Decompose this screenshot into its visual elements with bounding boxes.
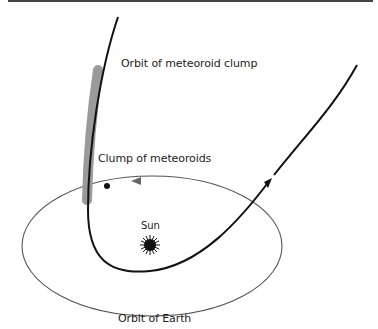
sun-icon <box>140 235 160 255</box>
earth-orbit-label: Orbit of Earth <box>118 312 191 325</box>
earth-orbit-arrow-icon <box>131 177 141 185</box>
sun-label: Sun <box>141 220 160 231</box>
meteoroid-orbit-label: Orbit of meteoroid clump <box>121 57 257 70</box>
meteoroid-orbit-path <box>88 17 270 272</box>
meteoroid-orbit-path-outgoing <box>274 65 357 175</box>
clump-label: Clump of meteoroids <box>98 152 211 165</box>
earth-dot <box>104 183 110 189</box>
